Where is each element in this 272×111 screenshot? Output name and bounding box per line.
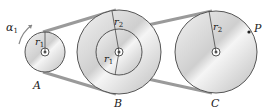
pulley-a <box>25 32 65 72</box>
alpha-label: α1 <box>6 21 18 35</box>
pulley-diagram: α1 r1 A r2 r1 B r2 C P <box>0 0 272 111</box>
pulley-b-label: B <box>113 97 122 110</box>
pulley-a-label: A <box>32 79 41 92</box>
point-p-label: P <box>253 22 262 35</box>
point-p-marker <box>247 30 250 33</box>
pulley-c-label: C <box>211 97 220 110</box>
